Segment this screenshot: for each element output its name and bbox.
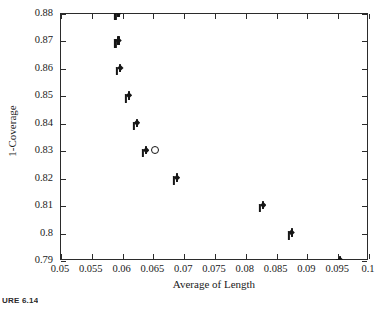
- x-tick-label: 0.07: [174, 263, 192, 274]
- x-tick-label: 0.09: [297, 263, 315, 274]
- x-tick-label: 0.085: [264, 263, 288, 274]
- y-axis-title: 1-Coverage: [6, 81, 18, 181]
- x-tick-label: 0.095: [325, 263, 349, 274]
- x-axis-title: Average of Length: [60, 278, 368, 290]
- x-tick-label: 0.1: [361, 263, 374, 274]
- x-tick-label: 0.065: [141, 263, 165, 274]
- x-tick-label: 0.06: [112, 263, 130, 274]
- figure-container: 0.790.80.810.820.830.840.850.860.870.88 …: [0, 0, 388, 310]
- x-tick-label: 0.08: [236, 263, 254, 274]
- figure-caption: URE 6.14: [2, 296, 38, 306]
- x-tick-label: 0.075: [202, 263, 226, 274]
- x-tick-label: 0.055: [79, 263, 103, 274]
- x-axis-tick-labels: 0.050.0550.060.0650.070.0750.080.0850.09…: [0, 0, 388, 310]
- x-tick-label: 0.05: [51, 263, 69, 274]
